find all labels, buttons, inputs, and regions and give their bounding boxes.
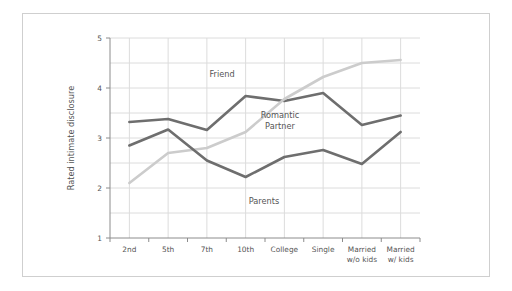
y-axis-tick-labels: 12345 xyxy=(97,34,102,243)
x-tick-label: Married xyxy=(348,245,376,254)
y-tick-label: 4 xyxy=(97,84,102,93)
x-axis-tick-labels: 2nd5th7th10thCollegeSingleMarriedw/o kid… xyxy=(122,245,415,264)
x-tick-label: w/ kids xyxy=(388,255,414,264)
series-annotation-label: Parents xyxy=(249,196,279,206)
series-annotation-label: Friend xyxy=(209,69,234,79)
y-tick-marks xyxy=(106,38,110,238)
line-chart: 12345 2nd5th7th10thCollegeSingleMarriedw… xyxy=(0,0,512,291)
series-annotation-label: Romantic xyxy=(261,110,300,120)
x-tick-label: 10th xyxy=(237,245,254,254)
x-tick-label: Married xyxy=(387,245,415,254)
y-axis-title: Rated intimate disclosure xyxy=(66,86,76,191)
x-tick-label: 7th xyxy=(201,245,214,254)
x-tick-label: 2nd xyxy=(122,245,136,254)
x-tick-label: w/o kids xyxy=(347,255,377,264)
figure: 12345 2nd5th7th10thCollegeSingleMarriedw… xyxy=(0,0,512,291)
y-tick-label: 2 xyxy=(97,184,102,193)
x-tick-label: 5th xyxy=(162,245,175,254)
y-tick-label: 3 xyxy=(97,134,102,143)
series-annotation-label: Partner xyxy=(265,121,295,131)
x-tick-label: Single xyxy=(312,245,335,254)
x-tick-marks xyxy=(110,238,420,242)
y-tick-label: 1 xyxy=(97,234,102,243)
y-tick-label: 5 xyxy=(97,34,102,43)
x-tick-label: College xyxy=(271,245,299,254)
